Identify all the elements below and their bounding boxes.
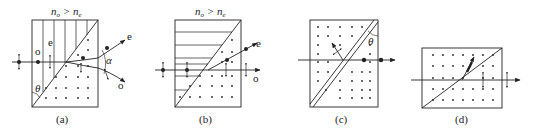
- theta-label: θ: [35, 82, 41, 94]
- optic-axis-dots-a: [45, 39, 89, 99]
- polarization-bar-icon: [467, 62, 472, 72]
- polarization-arrow-icon: [334, 49, 341, 54]
- prism-d-interface: [422, 48, 502, 108]
- o-ray-label: o: [35, 45, 41, 57]
- panel-a: no > ne o e: [12, 5, 132, 126]
- polarization-dot-icon: [225, 58, 229, 62]
- panel-b-condition: no > ne: [195, 5, 226, 19]
- optic-axis-dots-c: [317, 26, 371, 99]
- polarization-dot-icon: [105, 46, 109, 50]
- polarization-dot-icon: [379, 58, 383, 62]
- prism-b-interface: [175, 20, 241, 107]
- alpha-label: α: [106, 54, 112, 66]
- polarization-dot-icon: [362, 58, 366, 62]
- panel-d: (d): [411, 48, 520, 126]
- caption-a: (a): [56, 113, 69, 126]
- panel-b: no > ne e o: [155, 5, 261, 126]
- prism-c-outline: [310, 20, 378, 107]
- o-out-label: o: [118, 79, 124, 91]
- polarizing-prisms-diagram: no > ne o e: [0, 0, 533, 138]
- caption-d: (d): [455, 113, 468, 126]
- optic-axis-lines-a: [43, 20, 87, 92]
- e-out-label: e: [127, 30, 132, 42]
- o-out-label: o: [253, 72, 259, 84]
- panel-c: θ (c): [298, 20, 395, 126]
- polarization-dot-icon: [81, 56, 85, 60]
- caption-b: (b): [199, 113, 212, 126]
- o-ray-out-a: [66, 62, 125, 82]
- polarization-dot-icon: [244, 47, 248, 51]
- e-ray-label: e: [48, 36, 53, 48]
- e-out-label: e: [256, 37, 261, 49]
- o-polarization-dot-icon: [36, 60, 40, 64]
- panel-a-condition: no > ne: [51, 5, 82, 19]
- e-ray-out-b: [208, 43, 257, 70]
- caption-c: (c): [335, 113, 348, 126]
- theta-label: θ: [368, 35, 374, 47]
